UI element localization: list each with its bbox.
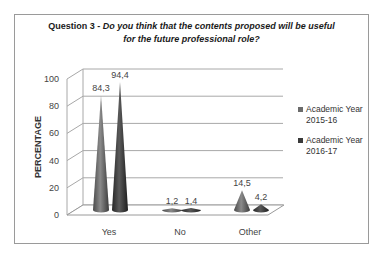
y-axis-label: PERCENTAGE — [33, 116, 43, 178]
y-tick-label: 0 — [54, 210, 59, 220]
legend-swatch-2016-17 — [298, 138, 303, 143]
y-tick-label: 20 — [49, 183, 59, 193]
y-tick-label: 40 — [49, 156, 59, 166]
legend-label-2016-17-line2: 2016-17 — [306, 146, 337, 156]
y-tick-label: 100 — [44, 74, 59, 84]
y-tick-label: 60 — [49, 128, 59, 138]
cone-yes-series-1 — [112, 82, 128, 213]
data-label: 14,5 — [233, 178, 251, 188]
x-category-label-no: No — [174, 227, 186, 237]
legend-label-2015-16-line1: Academic Year — [306, 104, 363, 114]
side-wall-gridline — [67, 151, 83, 161]
side-wall-gridline — [67, 178, 83, 188]
legend-label-2015-16-line2: 2015-16 — [306, 115, 337, 125]
data-label: 1,2 — [166, 196, 179, 206]
x-category-label-other: Other — [239, 227, 262, 237]
cone-yes-series-0 — [93, 95, 109, 212]
legend-item-2015-16: Academic Year2015-16 — [298, 104, 363, 126]
legend-label-2016-17-line1: Academic Year — [306, 135, 363, 145]
side-wall-gridline — [67, 123, 83, 133]
legend-item-2016-17: Academic Year2016-17 — [298, 135, 363, 157]
data-label: 4,2 — [255, 192, 268, 202]
data-label: 84,3 — [92, 83, 110, 93]
x-category-label-yes: Yes — [102, 227, 117, 237]
side-wall-gridline — [67, 96, 83, 106]
data-label: 94,4 — [111, 70, 129, 80]
legend-swatch-2015-16 — [298, 107, 303, 112]
cone-other-series-0 — [234, 190, 250, 212]
y-tick-label: 80 — [49, 101, 59, 111]
legend: Academic Year2015-16 Academic Year2016-1… — [298, 104, 363, 166]
side-wall-gridline — [67, 69, 83, 79]
data-label: 1,4 — [185, 196, 198, 206]
